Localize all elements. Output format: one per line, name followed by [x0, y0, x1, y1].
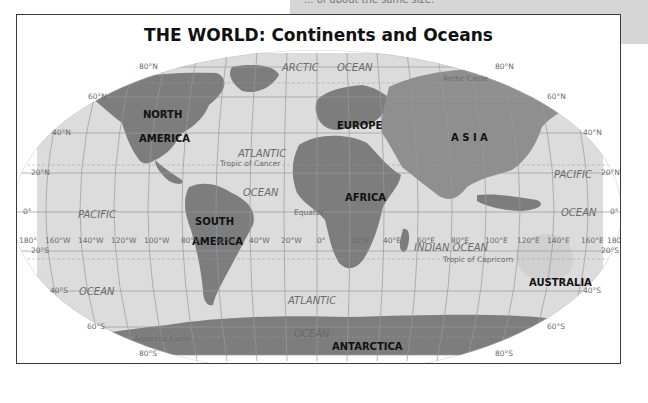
- label-arctic-2: OCEAN: [337, 62, 373, 73]
- lat-40n-w: 40°N: [52, 128, 71, 137]
- lon-label: 80°E: [451, 236, 469, 245]
- label-pacific-w-2: OCEAN: [79, 286, 115, 297]
- label-pacific-w-1: PACIFIC: [78, 209, 116, 220]
- label-arctic-1: ARCTIC: [281, 62, 319, 73]
- lat-0-e: 0°: [610, 207, 619, 216]
- label-arctic-circle: Arctic Circle: [443, 74, 488, 83]
- lat-40s-w: 40°S: [50, 286, 68, 295]
- world-map: NORTH AMERICA SOUTH AMERICA EUROPE A S I…: [17, 15, 620, 363]
- label-antarctic-circle: Antarctic Circle: [134, 334, 191, 343]
- label-equator: Equator: [294, 208, 324, 217]
- lat-80s-e: 80°S: [495, 349, 513, 358]
- label-antarctica: ANTARCTICA: [332, 341, 403, 352]
- label-africa: AFRICA: [345, 192, 386, 203]
- label-tropic-capricorn: Tropic of Capricorn: [442, 255, 513, 264]
- label-atlantic-s-2: OCEAN: [294, 328, 330, 339]
- label-north-america-1: NORTH: [143, 109, 182, 120]
- top-note-text: ... of about the same size.: [304, 0, 434, 5]
- lat-80n-w: 80°N: [139, 62, 158, 71]
- lat-40n-e: 40°N: [583, 128, 602, 137]
- label-pacific-e-2: OCEAN: [561, 207, 597, 218]
- lat-60n-e: 60°N: [547, 92, 566, 101]
- lon-label: 160°E: [581, 236, 604, 245]
- label-asia: A S I A: [451, 132, 488, 143]
- lon-label: 80°W: [181, 236, 202, 245]
- label-europe: EUROPE: [337, 120, 382, 131]
- lon-label: 140°W: [78, 236, 104, 245]
- lon-label: 60°E: [417, 236, 435, 245]
- lon-label: 20°E: [351, 236, 369, 245]
- label-atlantic-n-1: ATLANTIC: [237, 148, 286, 159]
- lat-60s-w: 60°S: [87, 322, 105, 331]
- lat-0-w: 0°: [23, 207, 32, 216]
- lat-80n-e: 80°N: [495, 62, 514, 71]
- label-atlantic-s-1: ATLANTIC: [287, 295, 336, 306]
- label-pacific-e-1: PACIFIC: [554, 169, 592, 180]
- lon-label: 140°E: [547, 236, 570, 245]
- lon-label: 180°: [607, 236, 620, 245]
- lon-label: 100°E: [485, 236, 508, 245]
- lon-label: 180°: [19, 236, 37, 245]
- label-atlantic-n-2: OCEAN: [243, 187, 279, 198]
- lon-label: 60°W: [215, 236, 236, 245]
- lon-label: 40°W: [249, 236, 270, 245]
- lat-60s-e: 60°S: [547, 322, 565, 331]
- lon-label: 120°W: [111, 236, 137, 245]
- lat-60n-w: 60°N: [88, 92, 107, 101]
- lat-40s-e: 40°S: [583, 286, 601, 295]
- lat-20n-w: 20°N: [31, 168, 50, 177]
- lon-label: 0°: [317, 236, 326, 245]
- label-north-america-2: AMERICA: [139, 133, 190, 144]
- label-south-america-1: SOUTH: [195, 216, 234, 227]
- lat-20s-w: 20°S: [31, 246, 49, 255]
- lat-20s-e: 20°S: [601, 246, 619, 255]
- lon-label: 160°W: [45, 236, 71, 245]
- lat-80s-w: 80°S: [139, 349, 157, 358]
- lon-label: 120°E: [517, 236, 540, 245]
- label-tropic-cancer: Tropic of Cancer: [219, 159, 281, 168]
- lat-20n-e: 20°N: [601, 168, 620, 177]
- map-frame: THE WORLD: Continents and Oceans: [16, 14, 621, 364]
- lon-label: 20°W: [281, 236, 302, 245]
- lon-label: 100°W: [144, 236, 170, 245]
- lon-label: 40°E: [383, 236, 401, 245]
